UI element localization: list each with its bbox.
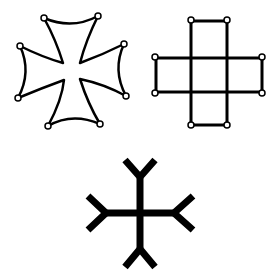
figure-canvas (0, 0, 272, 279)
greek-cross-squares-icon (152, 17, 265, 128)
forked-cross-icon (88, 160, 193, 267)
cross-pattee-icon (15, 13, 129, 129)
